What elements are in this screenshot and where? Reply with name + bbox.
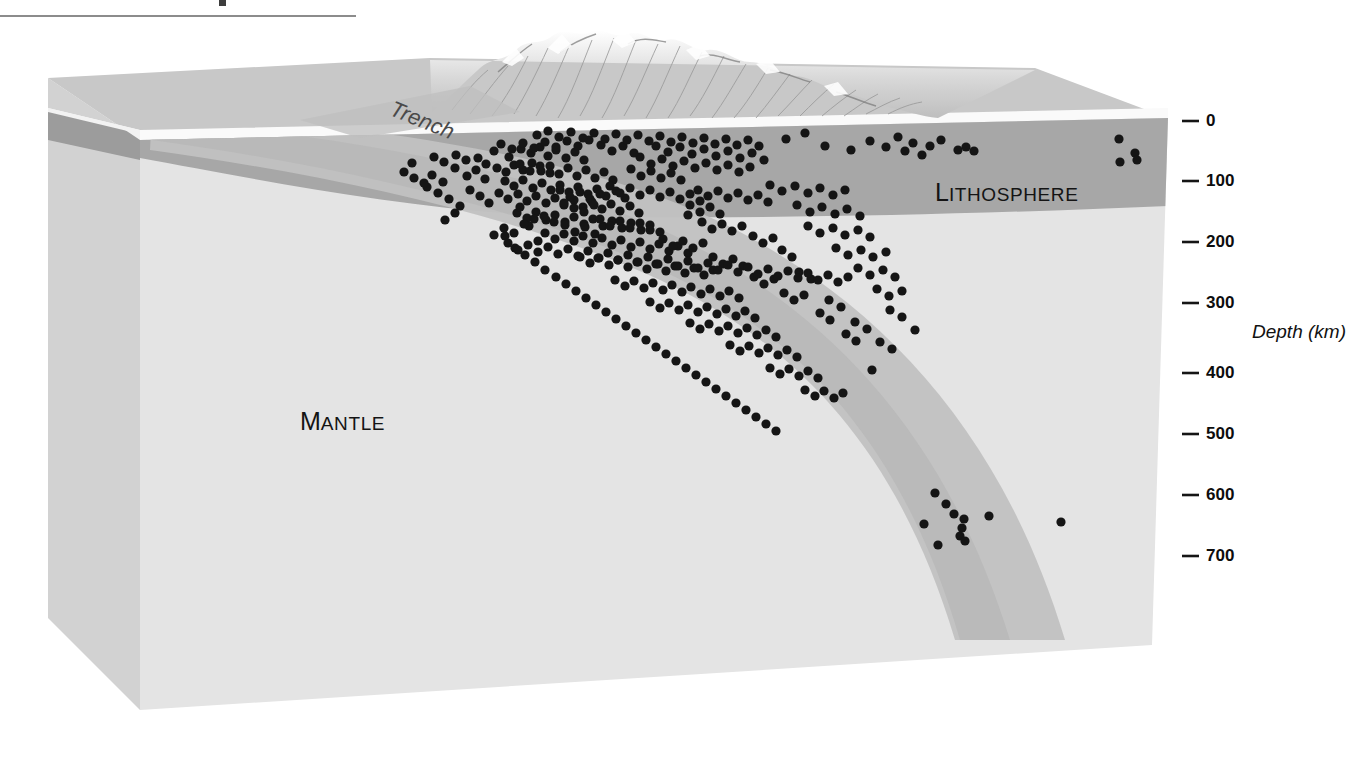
depth-tick-label: 600 [1206,485,1234,505]
lithosphere-label-initial: L [935,178,949,206]
lithosphere-label-rest: ITHOSPHERE [949,184,1079,205]
depth-axis-title: Depth (km) [1252,321,1346,343]
figure-canvas: LITHOSPHERE MANTLE Trench Depth (km) 010… [0,0,1360,766]
depth-tick-label: 500 [1206,424,1234,444]
mantle-label: MANTLE [300,407,385,436]
subduction-block-diagram [0,0,1360,766]
depth-tick-label: 400 [1206,363,1234,383]
depth-tick-label: 200 [1206,232,1234,252]
mantle-label-initial: M [300,407,321,435]
depth-tick-label: 100 [1206,171,1234,191]
depth-tick-label: 300 [1206,293,1234,313]
depth-tick-label: 0 [1206,111,1215,131]
depth-tick-label: 700 [1206,546,1234,566]
mantle-label-rest: ANTLE [321,413,385,434]
lithosphere-label: LITHOSPHERE [935,178,1078,207]
